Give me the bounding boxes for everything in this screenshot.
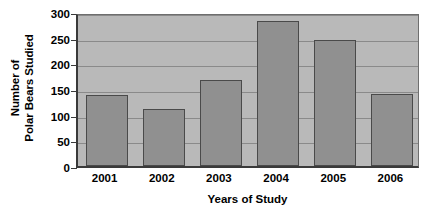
x-axis-title: Years of Study [76, 192, 419, 206]
y-axis-tick-mark [71, 168, 77, 169]
y-axis-tick-label: 100 [40, 111, 70, 123]
y-axis-tick-label: 300 [40, 8, 70, 20]
y-axis-tick-label: 50 [40, 136, 70, 148]
bar-2004 [257, 21, 299, 166]
x-axis-tick-label-2003: 2003 [206, 171, 232, 185]
y-axis-tick-label: 150 [40, 85, 70, 97]
x-axis-tick-label-2005: 2005 [320, 171, 346, 185]
bar-chart-figure: Number of Polar Bears Studied 0501001502… [0, 0, 431, 223]
bar-2001 [86, 95, 128, 166]
plot-area [76, 14, 419, 168]
x-axis-tick-label-2001: 2001 [92, 171, 118, 185]
x-axis-tick-label-2002: 2002 [149, 171, 175, 185]
y-axis-tick-label: 0 [40, 162, 70, 174]
x-axis-tick-labels: 200120022003200420052006 [76, 171, 419, 187]
y-axis-title-line-2: Polar Bears Studied [22, 34, 36, 141]
bar-2003 [200, 80, 242, 166]
bars-layer [78, 15, 418, 166]
y-axis-tick-label: 200 [40, 59, 70, 71]
y-axis-tick-labels: 050100150200250300 [40, 10, 70, 171]
y-axis-title: Number of Polar Bears Studied [0, 0, 44, 175]
bar-2002 [143, 109, 185, 166]
x-axis-tick-label-2006: 2006 [378, 171, 404, 185]
bar-2006 [371, 94, 413, 166]
y-axis-title-line-1: Number of [8, 34, 22, 141]
y-axis-tick-label: 250 [40, 34, 70, 46]
x-axis-tick-label-2004: 2004 [263, 171, 289, 185]
bar-2005 [314, 40, 356, 166]
